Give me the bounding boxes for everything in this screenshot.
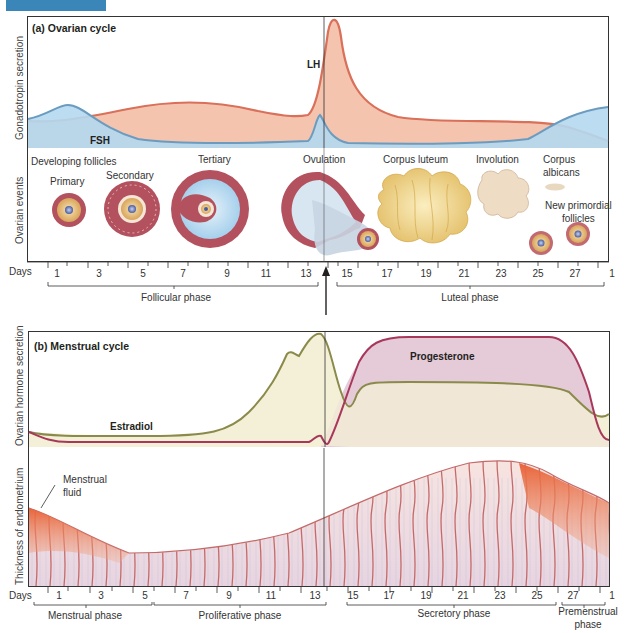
menstrual-day-23: 23 xyxy=(494,590,505,601)
menstrual-day-11: 11 xyxy=(266,590,276,601)
premenstrual-phase-label-2: phase xyxy=(574,619,601,630)
menstrual-day-19: 19 xyxy=(420,590,431,601)
proliferative-phase-label: Proliferative phase xyxy=(199,610,282,621)
menstrual-day-15: 15 xyxy=(347,590,358,601)
menstrual-day-17: 17 xyxy=(383,590,394,601)
menstrual-day-1: 1 xyxy=(56,590,62,601)
menstrual-day-5: 5 xyxy=(142,590,148,601)
menstrual-day-3: 3 xyxy=(98,590,104,601)
premenstrual-phase-label-1: Premenstrual xyxy=(558,606,617,617)
menstrual-day-21: 21 xyxy=(457,590,468,601)
menstrual-day-7: 7 xyxy=(183,590,189,601)
menstrual-days-axis xyxy=(0,0,631,633)
menstrual-day-27: 27 xyxy=(567,590,578,601)
secretory-phase-label: Secretory phase xyxy=(418,608,491,619)
menstrual-days-label: Days xyxy=(9,590,32,601)
menstrual-day-9: 9 xyxy=(226,590,232,601)
menstrual-phase-label: Menstrual phase xyxy=(48,610,122,621)
menstrual-day-1-next: 1 xyxy=(609,590,615,601)
menstrual-day-13: 13 xyxy=(309,590,320,601)
menstrual-day-25: 25 xyxy=(531,590,542,601)
